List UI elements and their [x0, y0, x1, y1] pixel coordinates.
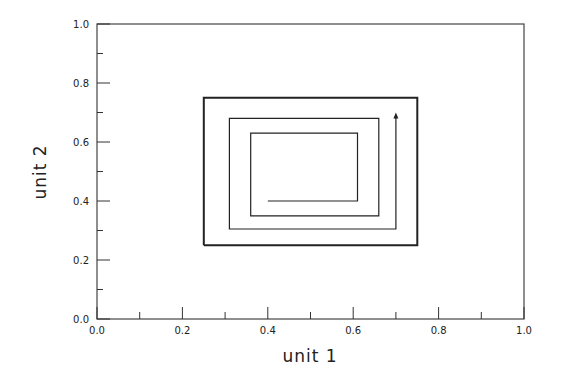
x-tick-label: 0.0: [89, 325, 105, 336]
chart: 0.00.20.40.60.81.0 0.00.20.40.60.81.0 un…: [0, 0, 562, 386]
y-axis-label: unit 2: [30, 144, 50, 199]
y-tick-label: 0.2: [73, 255, 89, 266]
y-tick-label: 1.0: [73, 19, 89, 30]
x-tick-label: 0.6: [345, 325, 361, 336]
arrow-head-icon: [393, 112, 398, 118]
y-tick-label: 0.4: [73, 196, 89, 207]
axis-ticks: [97, 24, 524, 319]
x-tick-label: 1.0: [516, 325, 532, 336]
y-tick-label: 0.0: [73, 314, 89, 325]
y-tick-label: 0.8: [73, 78, 89, 89]
axes-box: [97, 24, 524, 319]
x-axis-label: unit 1: [282, 346, 337, 366]
x-tick-label: 0.4: [260, 325, 276, 336]
data-series: [204, 98, 417, 246]
boundary-rectangle: [204, 98, 417, 246]
x-tick-label: 0.2: [174, 325, 190, 336]
x-tick-label: 0.8: [431, 325, 447, 336]
y-tick-label: 0.6: [73, 137, 89, 148]
x-tick-labels: 0.00.20.40.60.81.0: [89, 325, 532, 336]
y-tick-labels: 0.00.20.40.60.81.0: [73, 19, 89, 325]
plot-frame: [97, 24, 524, 319]
spiral-trajectory: [229, 116, 396, 230]
